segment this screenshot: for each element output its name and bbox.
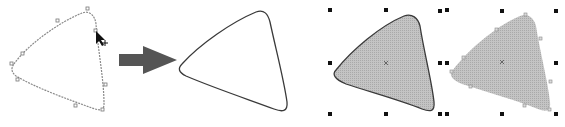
shape-filled-outlined[interactable] bbox=[334, 15, 434, 111]
panel-selected-filled-outlined[interactable] bbox=[328, 8, 442, 116]
shape-nodes[interactable] bbox=[10, 7, 107, 111]
panel-node-edit bbox=[10, 7, 108, 111]
panel-selected-filled[interactable] bbox=[445, 8, 558, 116]
shape-outline-result bbox=[179, 11, 287, 111]
figure-canvas bbox=[0, 0, 565, 127]
arrow-pointer-icon bbox=[96, 31, 105, 46]
right-arrow-icon bbox=[119, 46, 177, 74]
shape-outline-editing[interactable] bbox=[12, 12, 104, 110]
